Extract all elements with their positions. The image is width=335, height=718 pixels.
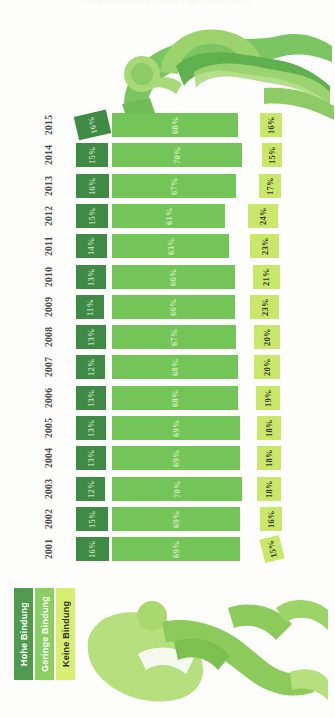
chart-row: 201013%66%21% bbox=[0, 262, 335, 292]
bar-value-label: 24% bbox=[248, 204, 278, 228]
bar-value-label: 67% bbox=[112, 174, 236, 198]
bar-segment-geringe-bindung: 69% bbox=[112, 416, 240, 440]
legend-item-hohe[interactable]: Hohe Bindung bbox=[14, 588, 33, 680]
bar-value-label: 69% bbox=[112, 537, 240, 561]
bar-value-label: 13% bbox=[76, 325, 106, 349]
bar-value-label: 16% bbox=[76, 537, 109, 561]
legend-item-label: Hohe Bindung bbox=[14, 588, 33, 680]
bar-value-label: 66% bbox=[112, 295, 235, 319]
bar-value-label: 18% bbox=[257, 477, 280, 501]
bar-segment-geringe-bindung: 68% bbox=[112, 113, 238, 137]
year-label: 2007 bbox=[36, 352, 62, 382]
bar-value-label: 61% bbox=[112, 204, 225, 228]
bar-segment-hohe-bindung: 12% bbox=[76, 355, 105, 379]
legend-item-geringe[interactable]: Geringe Bindung bbox=[35, 588, 54, 680]
year-label: 2008 bbox=[36, 322, 62, 352]
bar-segment-geringe-bindung: 68% bbox=[112, 355, 238, 379]
year-label: 2014 bbox=[36, 140, 62, 170]
bar-value-label: 70% bbox=[112, 477, 242, 501]
bar-value-label: 70% bbox=[112, 143, 242, 167]
bar-segment-keine-bindung: 24% bbox=[248, 204, 278, 228]
bar-segment-hohe-bindung: 16% bbox=[76, 537, 109, 561]
bar-segment-geringe-bindung: 61% bbox=[112, 204, 225, 228]
chart-row: 200312%70%18% bbox=[0, 474, 335, 504]
legend-item-keine[interactable]: Keine Bindung bbox=[56, 588, 75, 680]
bar-segment-keine-bindung: 17% bbox=[259, 174, 281, 198]
bar-value-label: 16% bbox=[260, 113, 281, 137]
bar-segment-keine-bindung: 15% bbox=[262, 143, 282, 167]
year-label: 2009 bbox=[36, 292, 62, 322]
year-label: 2010 bbox=[36, 262, 62, 292]
bar-segment-geringe-bindung: 68% bbox=[112, 386, 238, 410]
legend-item-label: Keine Bindung bbox=[56, 588, 75, 680]
bar-segment-geringe-bindung: 69% bbox=[112, 446, 240, 470]
bar-segment-keine-bindung: 18% bbox=[257, 416, 280, 440]
bar-value-label: 17% bbox=[259, 174, 281, 198]
bar-value-label: 66% bbox=[112, 265, 235, 289]
bar-segment-hohe-bindung: 16% bbox=[74, 110, 111, 141]
bar-value-label: 12% bbox=[76, 477, 105, 501]
bar-value-label: 13% bbox=[76, 416, 106, 440]
bar-segment-keine-bindung: 19% bbox=[256, 386, 281, 410]
bar-value-label: 15% bbox=[76, 143, 108, 167]
bar-segment-keine-bindung: 18% bbox=[257, 477, 280, 501]
bar-value-label: 67% bbox=[112, 325, 236, 349]
runner-figure-icon bbox=[64, 12, 335, 122]
bar-segment-keine-bindung: 16% bbox=[260, 507, 281, 531]
bar-segment-geringe-bindung: 63% bbox=[112, 234, 229, 258]
bar-segment-keine-bindung: 16% bbox=[260, 113, 281, 137]
bar-value-label: 15% bbox=[259, 535, 284, 563]
chart-row: 201215%61%24% bbox=[0, 201, 335, 231]
bar-segment-hohe-bindung: 11% bbox=[76, 295, 104, 319]
bar-value-label: 18% bbox=[257, 416, 280, 440]
bar-segment-keine-bindung: 21% bbox=[253, 265, 280, 289]
bar-value-label: 16% bbox=[74, 110, 111, 141]
bar-value-label: 23% bbox=[250, 295, 279, 319]
bar-value-label: 15% bbox=[76, 507, 108, 531]
bar-value-label: 68% bbox=[112, 113, 238, 137]
bar-value-label: 11% bbox=[76, 295, 104, 319]
chart-row: 200513%69%18% bbox=[0, 413, 335, 443]
bar-segment-geringe-bindung: 66% bbox=[112, 295, 235, 319]
bar-segment-keine-bindung: 15% bbox=[259, 535, 284, 563]
chart-row: 200215%69%16% bbox=[0, 504, 335, 534]
bar-segment-geringe-bindung: 70% bbox=[112, 143, 242, 167]
chart-row: 200613%68%19% bbox=[0, 383, 335, 413]
bar-segment-hohe-bindung: 16% bbox=[76, 174, 109, 198]
chart-legend: Hohe BindungGeringe BindungKeine Bindung bbox=[14, 588, 78, 680]
bar-value-label: 12% bbox=[76, 355, 105, 379]
bar-value-label: 19% bbox=[256, 386, 281, 410]
bar-segment-keine-bindung: 20% bbox=[254, 355, 280, 379]
bar-segment-geringe-bindung: 67% bbox=[112, 174, 236, 198]
bar-segment-hohe-bindung: 12% bbox=[76, 477, 105, 501]
year-label: 2012 bbox=[36, 201, 62, 231]
bar-value-label: 15% bbox=[262, 143, 282, 167]
year-label: 2006 bbox=[36, 383, 62, 413]
bar-segment-hohe-bindung: 13% bbox=[76, 325, 106, 349]
year-label: 2005 bbox=[36, 413, 62, 443]
bar-segment-geringe-bindung: 69% bbox=[112, 537, 240, 561]
chart-row: 200712%68%20% bbox=[0, 352, 335, 382]
bar-segment-keine-bindung: 23% bbox=[250, 295, 279, 319]
bar-value-label: 63% bbox=[112, 234, 229, 258]
bar-segment-geringe-bindung: 66% bbox=[112, 265, 235, 289]
bar-value-label: 21% bbox=[253, 265, 280, 289]
bar-value-label: 68% bbox=[112, 355, 238, 379]
bar-segment-geringe-bindung: 70% bbox=[112, 477, 242, 501]
bar-segment-hohe-bindung: 15% bbox=[76, 143, 108, 167]
chart-row: 200116%69%15% bbox=[0, 534, 335, 564]
bar-segment-hohe-bindung: 13% bbox=[76, 386, 106, 410]
bar-segment-hohe-bindung: 13% bbox=[76, 416, 106, 440]
bar-value-label: 13% bbox=[76, 446, 106, 470]
bar-value-label: 68% bbox=[112, 386, 238, 410]
bar-segment-keine-bindung: 23% bbox=[250, 234, 279, 258]
year-label: 2001 bbox=[36, 534, 62, 564]
runner-figure-icon bbox=[78, 588, 328, 714]
legend-item-label: Geringe Bindung bbox=[35, 588, 54, 680]
infographic-canvas: Mitarbeiterbindung (Gallup Engagement In… bbox=[0, 0, 335, 718]
bar-value-label: 18% bbox=[257, 446, 280, 470]
chart-row: 201516%68%16% bbox=[0, 110, 335, 140]
chart-row: 200911%66%23% bbox=[0, 292, 335, 322]
bar-segment-hohe-bindung: 13% bbox=[76, 265, 106, 289]
chart-row: 201114%63%23% bbox=[0, 231, 335, 261]
